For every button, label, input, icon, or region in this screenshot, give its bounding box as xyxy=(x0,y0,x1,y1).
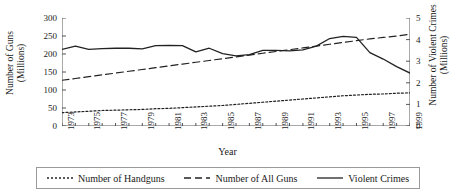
x-axis-tick-label: 1973 xyxy=(66,112,76,130)
legend-item: Number of Handguns xyxy=(47,173,165,184)
chart-legend: Number of HandgunsNumber of All GunsViol… xyxy=(36,167,420,189)
y-axis-left-tick-label: 50 xyxy=(48,103,57,113)
x-axis-tick-label: 1991 xyxy=(306,112,316,130)
x-axis-tick-label: 1987 xyxy=(253,112,263,130)
y-axis-right-tick-label: 4 xyxy=(416,35,421,45)
plot-svg xyxy=(62,18,410,126)
x-axis-tick-label: 1977 xyxy=(119,112,129,130)
x-axis-tick-label: 1985 xyxy=(226,112,236,130)
legend-swatch-dotted xyxy=(47,174,73,182)
y-axis-left-tick-label: 300 xyxy=(44,13,58,23)
series-line xyxy=(62,36,410,73)
x-axis-tick-label: 1999 xyxy=(414,112,424,130)
series-line xyxy=(62,34,410,80)
x-axis-tick-label: 1995 xyxy=(360,112,370,130)
x-axis-tick-label: 1975 xyxy=(92,112,102,130)
legend-item: Number of All Guns xyxy=(184,173,297,184)
y-axis-right-tick-label: 5 xyxy=(416,13,421,23)
y-axis-right-title: Number of Violent Crimes (Millions) xyxy=(428,0,450,111)
x-axis-tick-label: 1989 xyxy=(280,112,290,130)
y-axis-left-tick-label: 0 xyxy=(53,121,58,131)
y-axis-left-tick-label: 200 xyxy=(44,49,58,59)
legend-swatch-solid xyxy=(317,174,343,182)
legend-label: Number of Handguns xyxy=(78,173,165,184)
legend-swatch-dashed xyxy=(184,174,210,182)
legend-item: Violent Crimes xyxy=(317,173,409,184)
y-axis-left-title: Number of Guns (Millions) xyxy=(5,15,27,111)
y-axis-right-tick-label: 3 xyxy=(416,56,421,66)
y-axis-left-tick-label: 150 xyxy=(44,67,58,77)
x-axis-tick-label: 1981 xyxy=(173,112,183,130)
y-axis-right-tick-label: 2 xyxy=(416,78,421,88)
x-axis-tick-label: 1997 xyxy=(387,112,397,130)
plot-area: 050100150200250300 012345 19731975197719… xyxy=(62,18,410,126)
y-axis-right-tick-label: 1 xyxy=(416,99,421,109)
x-axis-tick-label: 1993 xyxy=(333,112,343,130)
legend-label: Violent Crimes xyxy=(348,173,409,184)
y-axis-left-tick-label: 100 xyxy=(44,85,58,95)
chart-figure: Number of Guns (Millions) Number of Viol… xyxy=(0,0,455,194)
series-line xyxy=(62,93,410,113)
legend-label: Number of All Guns xyxy=(215,173,297,184)
y-axis-left-tick-label: 250 xyxy=(44,31,58,41)
x-axis-title: Year xyxy=(0,146,455,157)
x-axis-tick-label: 1979 xyxy=(146,112,156,130)
x-axis-tick-label: 1983 xyxy=(199,112,209,130)
